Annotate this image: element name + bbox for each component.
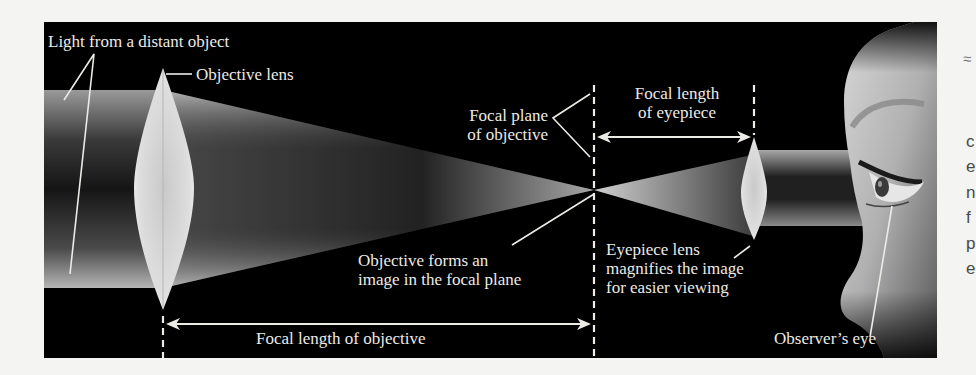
light-source-label: Light from a distant object (48, 32, 229, 51)
objective-forms-image-label: Objective forms an image in the focal pl… (358, 251, 521, 289)
margin-text-fragment: n (966, 182, 975, 203)
telescope-illustration (44, 22, 937, 358)
focal-plane-label: Focal plane of objective (454, 106, 548, 144)
observers-eye-label: Observer’s eye (774, 329, 876, 348)
focal-length-objective-label: Focal length of objective (256, 329, 425, 348)
margin-text-fragment: e (966, 156, 975, 177)
eyepiece-output-beam (756, 150, 866, 226)
margin-text-fragment: f (966, 207, 971, 228)
margin-text-fragment: c (966, 131, 975, 152)
focal-length-eyepiece-label: Focal length of eyepiece (612, 84, 742, 122)
observer-face (841, 22, 937, 358)
focal-plane-pointer (553, 94, 590, 157)
diverging-light-beam (594, 154, 756, 237)
margin-glyph: ≈ (963, 50, 971, 67)
telescope-diagram: Light from a distant object Objective le… (44, 22, 937, 358)
eyepiece-lens-label: Eyepiece lens magnifies the image for ea… (606, 240, 744, 297)
objective-lens-label: Objective lens (196, 65, 294, 84)
margin-text-fragment: e (966, 258, 975, 279)
margin-text-fragment: p (966, 233, 975, 254)
